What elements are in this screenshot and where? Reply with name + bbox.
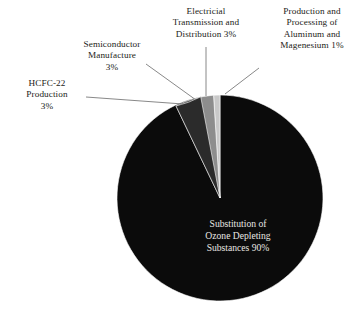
pie-label-semiconductor: Semiconductor Manufacture 3% (60, 39, 164, 73)
leader-line-aluminum (225, 68, 259, 94)
pie-chart-figure: HCFC-22 Production 3% Semiconductor Manu… (0, 0, 364, 314)
leader-line-hcfc22 (86, 97, 183, 104)
pie-label-electrical: Electricial Transmission and Distributio… (154, 6, 258, 40)
pie-label-aluminum: Production and Processing of Aluminum an… (262, 6, 362, 52)
pie-label-substitution: Substitution of Ozone Depleting Substanc… (168, 218, 308, 255)
pie-label-hcfc22: HCFC-22 Production 3% (4, 78, 90, 112)
